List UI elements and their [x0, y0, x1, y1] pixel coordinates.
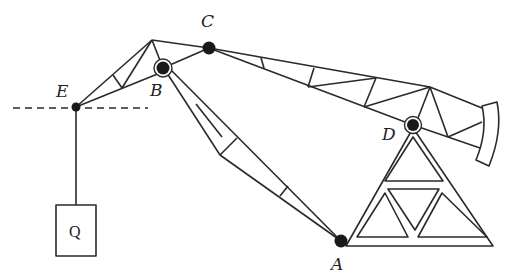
truss-diagram: Q — [0, 0, 507, 278]
beam-truss — [209, 48, 482, 148]
top-chord — [152, 40, 209, 48]
joint-d — [407, 119, 419, 131]
label-c: C — [201, 11, 214, 31]
horse-head — [476, 102, 499, 166]
label-a: A — [329, 254, 343, 274]
joint-a — [335, 235, 348, 248]
joint-c — [203, 42, 216, 55]
joint-b — [157, 62, 170, 75]
label-b: B — [149, 80, 163, 100]
load-label: Q — [69, 223, 81, 240]
joint-e — [72, 103, 81, 112]
label-d: D — [381, 124, 396, 144]
strut-ba — [165, 69, 341, 241]
label-e: E — [55, 81, 69, 101]
